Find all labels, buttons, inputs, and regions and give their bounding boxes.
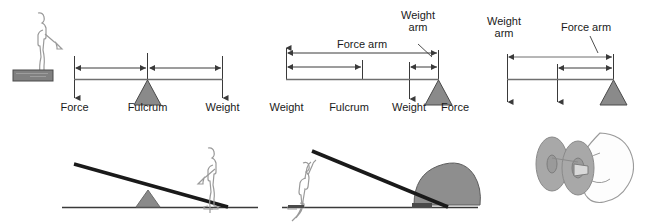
illustration-wheel-axle (536, 133, 634, 203)
label-force: Force (60, 101, 88, 113)
illustration-seesaw (62, 148, 258, 213)
label-weight-right: Weight (392, 101, 426, 113)
label-weight-arm-line2: arm (409, 21, 428, 33)
wheel-hub-icon (547, 155, 557, 173)
diagram-third-class-lever: Weight arm Force arm (487, 15, 627, 105)
fulcrum-block-icon (412, 203, 432, 208)
label-weight-left: Weight (269, 101, 303, 113)
diagram-second-class-lever: Force arm Weight arm Weight Fulcrum Weig… (269, 9, 469, 113)
fulcrum-triangle-icon (136, 190, 160, 207)
label-weight-arm-line1: Weight (487, 15, 521, 27)
fulcrum-triangle-icon (600, 80, 627, 105)
label-force-arm: Force arm (337, 38, 387, 50)
person-pushing-icon (288, 160, 316, 221)
label-weight: Weight (205, 101, 239, 113)
label-weight-arm-line2: arm (495, 27, 514, 39)
diagram-first-class-lever: Force Fulcrum Weight (13, 13, 240, 113)
label-fulcrum: Fulcrum (128, 101, 168, 113)
label-force-arm: Force arm (561, 21, 611, 33)
illustration-lifting-rock (282, 151, 480, 221)
label-weight-arm-line1: Weight (401, 9, 435, 21)
label-force: Force (441, 101, 469, 113)
axle-icon (574, 164, 588, 176)
leader-line (418, 44, 432, 57)
figure-svg: Force Fulcrum Weight (0, 0, 645, 223)
block-icon (13, 70, 53, 81)
label-fulcrum: Fulcrum (329, 101, 369, 113)
leader-line (590, 36, 598, 53)
person-platform-icon (288, 205, 304, 208)
figure-canvas: Force Fulcrum Weight (0, 0, 645, 223)
